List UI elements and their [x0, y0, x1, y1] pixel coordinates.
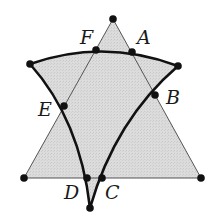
point-e	[60, 102, 68, 110]
label-c: C	[105, 181, 120, 203]
point-f	[92, 46, 100, 54]
point-d	[83, 174, 91, 182]
label-b: B	[165, 86, 180, 108]
curve-left-end	[26, 60, 34, 68]
point-a	[128, 48, 136, 56]
label-e: E	[37, 98, 52, 120]
geometry-diagram: A B C D E F	[0, 0, 224, 219]
label-f: F	[79, 26, 94, 48]
curve-bottom-end	[86, 204, 94, 212]
curve-right-end	[174, 62, 182, 70]
label-a: A	[135, 26, 151, 48]
vertex-bottom-right	[197, 174, 205, 182]
label-d: D	[63, 181, 79, 203]
vertex-bottom-left	[20, 174, 28, 182]
point-b	[151, 91, 159, 99]
vertex-top	[109, 15, 117, 23]
